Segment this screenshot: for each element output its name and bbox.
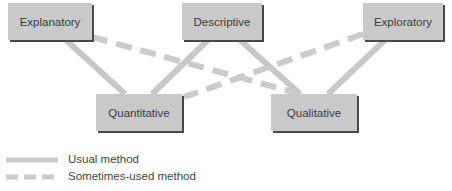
node-label: Exploratory [374,16,432,28]
node-explanatory: Explanatory [8,3,92,40]
node-label: Qualitative [287,107,341,119]
edge-exploratory-qualitative [328,40,385,94]
legend-sometimes-label: Sometimes-used method [68,170,196,182]
legend-usual: Usual method [68,153,139,165]
node-exploratory: Exploratory [363,3,443,40]
legend-usual-label: Usual method [68,153,139,165]
node-label: Descriptive [194,16,251,28]
edge-explanatory-quantitative [66,40,125,94]
node-quantitative: Quantitative [96,94,182,131]
node-label: Explanatory [20,16,81,28]
node-qualitative: Qualitative [271,94,357,131]
node-label: Quantitative [108,107,169,119]
legend-sometimes: Sometimes-used method [68,170,196,182]
node-descriptive: Descriptive [182,3,262,40]
